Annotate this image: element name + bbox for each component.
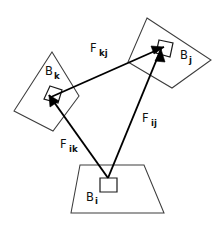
body-label-bj: B [180,48,188,62]
body-label-bk: B [45,64,53,78]
force-label-fkj: F [90,41,97,55]
body-label-bi: B [86,190,94,204]
body-label-bj-subscript: j [188,55,192,65]
force-vector-fik [49,95,108,178]
force-diagram-figure: B k B j B i F kj F ij F ik [0,0,219,229]
force-label-fij-subscript: ij [151,118,157,128]
force-label-fkj-subscript: kj [99,48,108,58]
force-label-fik-subscript: ik [69,144,78,154]
body-label-bk-subscript: k [54,71,60,81]
body-label-bi-subscript: i [95,196,98,206]
force-label-fik: F [60,137,67,151]
diagram-canvas: B k B j B i F kj F ij F ik [0,0,219,229]
force-label-fij: F [142,111,149,125]
body-outline-bj [128,18,211,88]
anchor-marker-bi [100,178,117,192]
arrowhead-fik [49,95,59,107]
